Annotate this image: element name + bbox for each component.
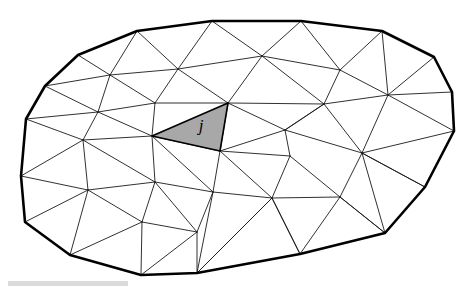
scan-artifact-layer	[8, 281, 128, 286]
mesh-canvas: j	[0, 0, 472, 289]
element-label-j: j	[197, 116, 204, 135]
scan-smudge-0	[8, 281, 128, 286]
figure-background	[0, 0, 472, 289]
mesh-figure: j	[0, 0, 472, 289]
